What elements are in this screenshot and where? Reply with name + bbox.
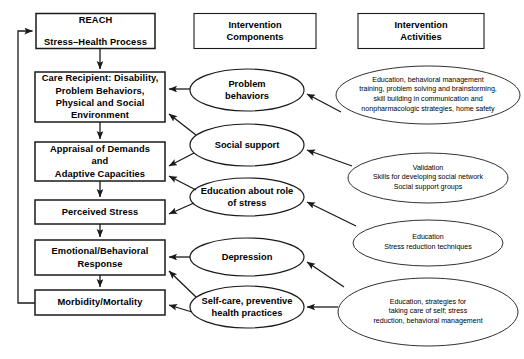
- ellipse-activity-problem-behaviors: [336, 66, 520, 124]
- arrow-activity-to-social-support: [307, 150, 352, 166]
- ellipse-activity-education: [353, 220, 503, 266]
- process-box-appraisal: [35, 142, 165, 181]
- arrow-feedback-morbidity-to-reach: [18, 31, 35, 303]
- arrow-education-stress-to-perceived-stress: [169, 203, 194, 214]
- process-box-care-recipient: [35, 72, 165, 122]
- ellipse-education-stress-role: [190, 178, 304, 216]
- ellipse-activity-self-care: [338, 278, 518, 346]
- arrow-activity-to-education-stress: [307, 202, 356, 226]
- arrow-social-support-to-care-recipient: [169, 114, 196, 135]
- diagram-canvas: [0, 0, 524, 359]
- arrow-education-stress-to-appraisal: [169, 176, 196, 190]
- ellipse-self-care: [190, 286, 304, 328]
- header-box-intervention-activities: [358, 14, 484, 49]
- process-box-emotional-response: [35, 240, 165, 275]
- ellipse-activity-social-support: [348, 153, 508, 203]
- process-box-morbidity: [35, 290, 165, 315]
- arrow-self-care-to-emotional: [169, 271, 196, 297]
- ellipse-depression: [190, 238, 304, 276]
- header-box-intervention-components: [194, 14, 316, 49]
- arrow-self-care-to-morbidity: [169, 305, 192, 312]
- ellipse-social-support: [190, 124, 304, 166]
- arrow-activity-to-depression: [307, 262, 344, 287]
- reach-model-diagram: Intervention Components Intervention Act…: [0, 0, 524, 359]
- process-box-reach: [36, 14, 155, 49]
- ellipse-problem-behaviors: [190, 69, 304, 111]
- arrow-social-support-to-appraisal: [169, 153, 194, 166]
- process-box-perceived-stress: [35, 200, 165, 224]
